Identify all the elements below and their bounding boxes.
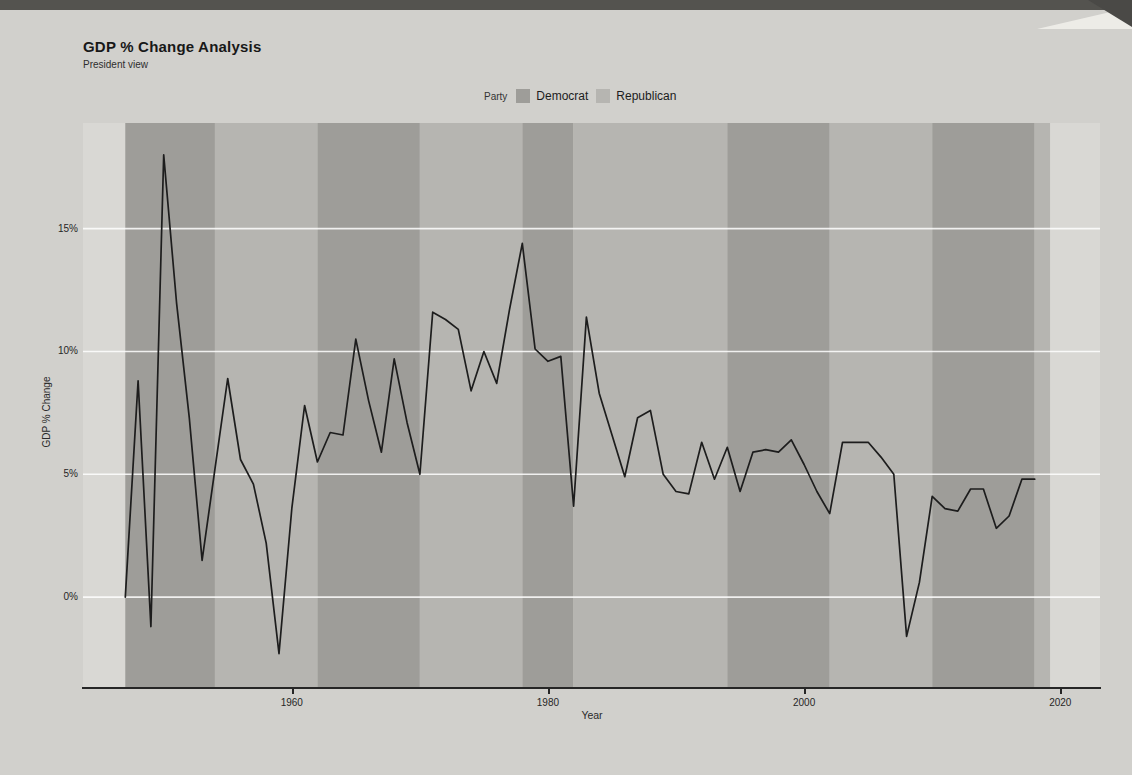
- x-tick: [292, 689, 294, 694]
- x-axis-title: Year: [581, 709, 602, 721]
- x-tick-label: 1980: [518, 697, 578, 708]
- democrat-swatch-icon: [516, 89, 530, 103]
- party-band-democrat: [932, 123, 1034, 688]
- x-tick-label: 2020: [1030, 697, 1090, 708]
- legend-item-label: Republican: [616, 89, 676, 103]
- x-tick-label: 2000: [774, 697, 834, 708]
- page-title: GDP % Change Analysis: [83, 38, 261, 55]
- y-tick-label: 10%: [28, 345, 78, 356]
- party-band-democrat: [727, 123, 829, 688]
- page-top-edge: [0, 0, 1132, 10]
- legend-item-label: Democrat: [536, 89, 588, 103]
- party-band-republican: [1035, 123, 1050, 688]
- party-band-republican: [574, 123, 728, 688]
- plot-panel: [83, 123, 1100, 688]
- page-subtitle: President view: [83, 59, 148, 70]
- legend-item-democrat: Democrat: [516, 89, 588, 103]
- y-tick-label: 15%: [28, 223, 78, 234]
- y-tick-label: 0%: [28, 591, 78, 602]
- party-band-republican: [420, 123, 522, 688]
- x-axis-line: [82, 687, 1101, 689]
- legend-title: Party: [484, 91, 507, 102]
- y-axis-title: GDP % Change: [41, 377, 52, 448]
- y-tick-label: 5%: [28, 468, 78, 479]
- republican-swatch-icon: [596, 89, 610, 103]
- party-band-republican: [830, 123, 932, 688]
- party-band-republican: [215, 123, 317, 688]
- party-legend: Party Democrat Republican: [484, 89, 676, 103]
- x-tick: [1060, 689, 1062, 694]
- legend-item-republican: Republican: [596, 89, 676, 103]
- party-band-democrat: [317, 123, 419, 688]
- plot-svg: [83, 123, 1100, 688]
- x-tick: [548, 689, 550, 694]
- x-tick-label: 1960: [262, 697, 322, 708]
- party-band-democrat: [522, 123, 573, 688]
- x-tick: [804, 689, 806, 694]
